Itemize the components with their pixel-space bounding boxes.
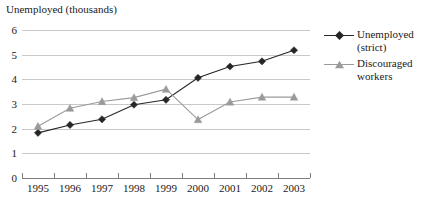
legend-label-line2: (strict) <box>357 41 414 54</box>
data-point-marker <box>226 63 233 70</box>
data-point-marker <box>66 121 73 128</box>
x-axis-line <box>22 178 310 179</box>
x-axis-tick-label: 2001 <box>219 182 241 194</box>
y-axis-tick-label: 2 <box>12 124 18 135</box>
chart-legend: Unemployed(strict)Discouragedworkers <box>324 28 420 86</box>
y-axis-tick-label: 4 <box>12 74 18 85</box>
x-axis-tick-mark <box>86 173 87 178</box>
plot-area: 0123456 <box>22 30 310 178</box>
data-point-marker <box>130 101 137 108</box>
data-point-marker <box>258 58 265 65</box>
series-line <box>38 89 294 126</box>
y-axis-tick-label: 0 <box>12 173 18 184</box>
y-axis-tick-label: 3 <box>12 99 18 110</box>
data-point-marker <box>290 47 297 54</box>
x-axis-tick-label: 1997 <box>91 182 113 194</box>
legend-label-line2: workers <box>357 70 413 83</box>
data-point-marker <box>34 122 42 129</box>
legend-entry[interactable]: Discouragedworkers <box>324 57 420 82</box>
x-axis-tick-mark <box>182 173 183 178</box>
x-axis-tick-mark <box>54 173 55 178</box>
legend-label-line1: Unemployed <box>357 28 414 41</box>
triangle-marker-icon <box>324 58 354 71</box>
y-axis-tick-label: 5 <box>12 50 18 61</box>
x-axis-tick-mark <box>246 173 247 178</box>
x-axis-tick-label: 1999 <box>155 182 177 194</box>
chart-title: Unemployed (thousands) <box>6 3 117 16</box>
x-axis-tick-label: 2003 <box>283 182 305 194</box>
x-axis-tick-label: 2000 <box>187 182 209 194</box>
data-point-marker <box>162 96 169 103</box>
diamond-marker-icon <box>324 29 354 42</box>
x-axis-tick-label: 1995 <box>27 182 49 194</box>
series-layer <box>22 30 310 178</box>
x-axis-tick-mark <box>214 173 215 178</box>
legend-entry[interactable]: Unemployed(strict) <box>324 28 420 53</box>
legend-label: Discouragedworkers <box>357 57 413 82</box>
data-point-marker <box>34 129 41 136</box>
data-point-marker <box>98 116 105 123</box>
x-axis-tick-label: 1998 <box>123 182 145 194</box>
y-axis-tick-label: 1 <box>12 148 18 159</box>
x-axis-tick-label: 1996 <box>59 182 81 194</box>
legend-marker <box>335 31 344 40</box>
x-axis-tick-mark <box>310 173 311 178</box>
legend-label: Unemployed(strict) <box>357 28 414 53</box>
x-axis-tick-mark <box>150 173 151 178</box>
unemployment-line-chart: Unemployed (thousands) 0123456 199519961… <box>0 0 422 207</box>
data-point-marker <box>194 74 201 81</box>
x-axis-tick-mark <box>22 173 23 178</box>
x-axis-tick-mark <box>278 173 279 178</box>
legend-label-line1: Discouraged <box>357 57 413 70</box>
y-axis-tick-label: 6 <box>12 25 18 36</box>
x-axis-tick-label: 2002 <box>251 182 273 194</box>
data-point-marker <box>162 85 170 92</box>
x-axis-tick-mark <box>118 173 119 178</box>
